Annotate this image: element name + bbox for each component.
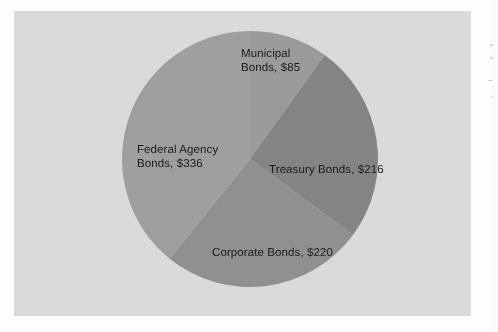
pie-label-municipal-line1: Municipal — [241, 48, 290, 60]
pie-label-municipal-bonds: MunicipalBonds, $85 — [241, 48, 300, 75]
pie-label-municipal-line2: Bonds, $85 — [241, 62, 300, 74]
scan-speck — [491, 96, 493, 97]
pie-label-federal-line2: Bonds, $336 — [137, 158, 203, 170]
scan-speck — [488, 80, 493, 81]
scan-speck — [490, 44, 493, 46]
pie-label-corporate-bonds: Corporate Bonds, $220 — [212, 247, 333, 261]
scan-speck — [490, 57, 493, 59]
scan-edge-artifact — [490, 0, 498, 332]
pie-label-federal-line1: Federal Agency — [137, 144, 218, 156]
chart-plot-area: Municipal Bonds, $85Treasury Bonds, $216… — [15, 12, 470, 315]
pie-label-treasury-bonds: Treasury Bonds, $216 — [269, 164, 384, 178]
pie-label-federal-agency-bonds: Federal AgencyBonds, $336 — [137, 144, 218, 171]
pie-chart-figure: Municipal Bonds, $85Treasury Bonds, $216… — [0, 0, 498, 332]
